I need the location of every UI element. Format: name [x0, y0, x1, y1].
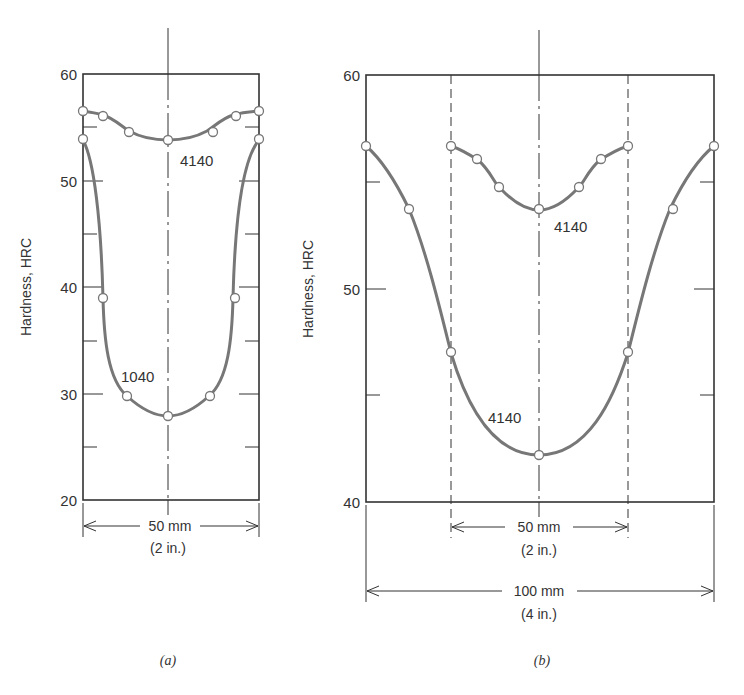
chart-b-ytick-40: 40 — [343, 494, 360, 511]
chart-b-markers — [362, 142, 719, 460]
chart-a-ytick-20: 20 — [60, 492, 77, 509]
chart-a-dim-sub: (2 in.) — [150, 540, 186, 556]
chart-b-dim1-sub: (2 in.) — [521, 542, 557, 558]
chart-b-dim2-value: 100 mm — [514, 583, 565, 599]
chart-a-ytick-40: 40 — [60, 279, 77, 296]
chart-b-label-4140-upper: 4140 — [554, 218, 587, 235]
chart-a: 60 50 40 30 20 Hardness, HRC 4140 1040 5… — [18, 28, 264, 669]
chart-a-label-1040: 1040 — [121, 368, 154, 385]
chart-a-ytick-60: 60 — [60, 66, 77, 83]
chart-b-label-4140-lower: 4140 — [488, 409, 521, 426]
chart-b-ytick-50: 50 — [343, 281, 360, 298]
hardness-profile-figure: 60 50 40 30 20 Hardness, HRC 4140 1040 5… — [0, 0, 744, 695]
chart-b-frame — [366, 75, 714, 502]
chart-a-ytick-50: 50 — [60, 173, 77, 190]
chart-b-ylabel: Hardness, HRC — [300, 240, 316, 338]
chart-a-label-4140: 4140 — [180, 152, 213, 169]
chart-b-ytick-60: 60 — [343, 67, 360, 84]
panel-label-b: (b) — [534, 653, 551, 669]
chart-b: 60 50 40 Hardness, HRC 4140 4140 50 mm (… — [300, 30, 719, 669]
chart-a-dim-value: 50 mm — [149, 518, 192, 534]
chart-b-dim1-value: 50 mm — [518, 519, 561, 535]
chart-a-ylabel: Hardness, HRC — [18, 238, 34, 336]
chart-a-ytick-30: 30 — [60, 386, 77, 403]
chart-b-dim2-sub: (4 in.) — [521, 606, 557, 622]
chart-b-series-4140-100mm — [366, 146, 714, 455]
chart-a-series-1040 — [83, 140, 259, 416]
panel-label-a: (a) — [160, 653, 177, 669]
